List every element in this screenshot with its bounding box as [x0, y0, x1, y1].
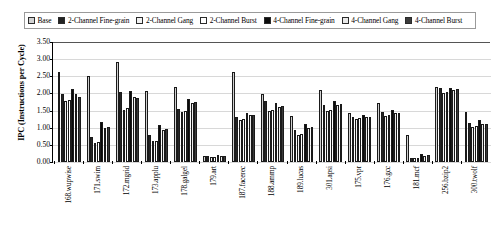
y-axis-tick-mark: [50, 162, 53, 163]
x-axis-tick-mark: [403, 161, 404, 164]
bar-group: [171, 42, 200, 162]
bar: [64, 101, 67, 162]
x-axis-label-cell: 176.gcc: [374, 164, 403, 222]
bar: [329, 110, 332, 162]
y-axis-tick-label: 1.50: [37, 107, 50, 115]
x-axis-label-cell: 168.wupwise: [54, 164, 83, 222]
x-axis-tick-label: 188.ammp: [268, 166, 276, 196]
x-axis-tick-mark: [257, 161, 258, 164]
legend-item-2channel-gang: 2-Channel Gang: [136, 17, 193, 25]
bar: [220, 156, 223, 163]
x-axis-tick-mark: [345, 161, 346, 164]
legend-label-2channel-burst: 2-Channel Burst: [210, 17, 257, 25]
legend-swatch-4channel-burst: [405, 17, 412, 24]
bar: [217, 155, 220, 162]
bar: [203, 156, 206, 162]
bar: [264, 101, 267, 162]
bar: [304, 124, 307, 162]
x-axis-tick-mark: [287, 161, 288, 164]
bar: [398, 113, 401, 162]
bar: [104, 128, 107, 162]
x-axis-label-cell: 172.mgrid: [112, 164, 141, 222]
bar: [355, 119, 358, 162]
x-axis-label-cell: 173.applu: [141, 164, 170, 222]
bar: [485, 124, 488, 162]
x-axis-tick-mark: [432, 161, 433, 164]
bar: [388, 115, 391, 162]
bar: [362, 115, 365, 162]
bar-group: [346, 42, 375, 162]
x-axis-label-cell: 188.ammp: [257, 164, 286, 222]
bar: [377, 103, 380, 162]
legend-swatch-4channel-fine-grain: [264, 17, 271, 24]
bar: [239, 120, 242, 163]
bar: [223, 156, 226, 163]
bar: [61, 94, 64, 162]
bar: [271, 110, 274, 162]
bar: [446, 92, 449, 162]
bar: [87, 76, 90, 162]
chart-legend: Base 2-Channel Fine-grain 2-Channel Gang…: [24, 12, 476, 29]
bar-group: [433, 42, 462, 162]
y-axis-tick-label: 0.00: [37, 158, 50, 166]
bar: [481, 124, 484, 162]
y-axis-tick-label: 0.50: [37, 141, 50, 149]
x-axis-tick-label: 168.wupwise: [65, 166, 73, 204]
x-axis-label-cell: 171.swim: [83, 164, 112, 222]
bar: [423, 156, 426, 163]
bar: [326, 111, 329, 162]
y-axis-tick-label: 1.00: [37, 124, 50, 132]
x-axis-tick-label: 171.swim: [94, 166, 102, 194]
bar: [206, 156, 209, 162]
x-axis-label-cell: 181.mcf: [403, 164, 432, 222]
x-axis-label-cell: 179.art: [199, 164, 228, 222]
bar: [439, 88, 442, 162]
bar: [391, 110, 394, 162]
bar: [442, 93, 445, 162]
bar: [307, 128, 310, 162]
bar-group: [229, 42, 258, 162]
bar: [323, 105, 326, 162]
bar: [78, 97, 81, 162]
bar: [300, 134, 303, 162]
bar-group: [404, 42, 433, 162]
bar: [275, 103, 278, 162]
x-axis-tick-label: 300.twolf: [471, 166, 479, 193]
legend-label-2channel-fine-grain: 2-Channel Fine-grain: [68, 17, 129, 25]
bar-group: [375, 42, 404, 162]
legend-label-4channel-fine-grain: 4-Channel Fine-grain: [273, 17, 334, 25]
bar: [191, 103, 194, 162]
bar: [297, 135, 300, 162]
bar-groups: [53, 42, 491, 162]
bar: [478, 120, 481, 162]
bar: [278, 107, 281, 162]
bar: [252, 115, 255, 162]
bar: [311, 127, 314, 162]
bar: [58, 72, 61, 162]
bar: [119, 92, 122, 162]
bar: [449, 88, 452, 162]
x-axis-tick-mark: [461, 161, 462, 164]
bar: [210, 157, 213, 162]
bar: [471, 127, 474, 162]
bar: [158, 125, 161, 162]
bar: [145, 91, 148, 162]
x-axis-tick-mark: [54, 161, 55, 164]
bar: [427, 155, 430, 162]
bar-group: [317, 42, 346, 162]
legend-swatch-base: [28, 17, 35, 24]
bar: [420, 154, 423, 162]
bar: [352, 117, 355, 162]
bar: [213, 157, 216, 162]
legend-swatch-2channel-gang: [136, 17, 143, 24]
legend-item-2channel-fine-grain: 2-Channel Fine-grain: [58, 17, 129, 25]
bar: [155, 141, 158, 162]
bar: [90, 137, 93, 162]
bar-group: [55, 42, 84, 162]
bar: [475, 126, 478, 162]
bar-group: [462, 42, 491, 162]
legend-label-4channel-burst: 4-Channel Burst: [415, 17, 462, 25]
x-axis-label-cell: 256.bzip2: [432, 164, 461, 222]
bar-group: [288, 42, 317, 162]
x-axis-tick-label: 178.galgel: [181, 166, 189, 196]
